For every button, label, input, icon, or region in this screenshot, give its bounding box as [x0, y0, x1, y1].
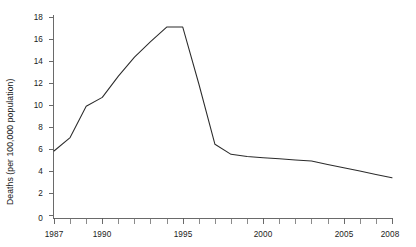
y-tick-label: 6 — [38, 145, 43, 154]
x-axis-tick-labels: 1987 1990 1995 2000 2005 2008 — [45, 230, 400, 239]
y-axis-title: Deaths (per 100,000 population) — [5, 79, 15, 205]
y-axis-ticks — [49, 17, 53, 215]
x-tick-label: 2005 — [335, 230, 354, 239]
y-axis-title-group: Deaths (per 100,000 population) — [5, 79, 15, 205]
chart-figure: Deaths (per 100,000 population) 18 16 14… — [0, 0, 416, 247]
y-axis-tick-labels: 18 16 14 12 10 8 6 4 2 0 — [34, 13, 44, 223]
x-tick-label: 1995 — [174, 230, 193, 239]
y-tick-label: 2 — [38, 189, 43, 198]
x-tick-label: 1990 — [93, 230, 112, 239]
y-tick-label: 16 — [34, 35, 44, 44]
line-chart: Deaths (per 100,000 population) 18 16 14… — [0, 0, 416, 247]
y-tick-label: 4 — [38, 167, 43, 176]
y-tick-label: 0 — [38, 214, 43, 223]
y-tick-label: 8 — [38, 123, 43, 132]
x-axis-ticks — [54, 218, 392, 224]
y-tick-label: 18 — [34, 13, 44, 22]
y-tick-label: 12 — [34, 79, 44, 88]
x-tick-label: 2000 — [254, 230, 273, 239]
data-series-line — [54, 27, 392, 178]
x-tick-label: 2008 — [381, 230, 400, 239]
y-tick-label: 14 — [34, 57, 44, 66]
x-tick-label: 1987 — [45, 230, 64, 239]
y-tick-label: 10 — [34, 101, 44, 110]
